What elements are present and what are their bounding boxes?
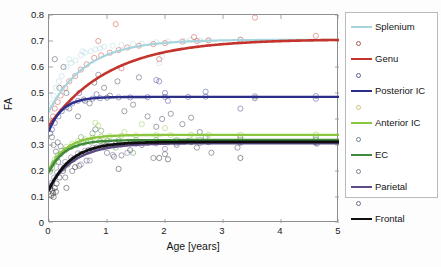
scatter-point: [313, 33, 318, 38]
scatter-point: [52, 106, 57, 111]
y-tick-label: 0: [39, 217, 44, 228]
legend-item-frontal[interactable]: Frontal: [346, 209, 437, 229]
scatter-series-anterior-ic: [49, 120, 318, 172]
legend-item-label: Posterior IC: [375, 86, 425, 96]
legend-marker-row: [346, 133, 437, 145]
legend-item-label: Anterior IC: [375, 118, 420, 128]
scatter-series-posterior-ic: [49, 77, 318, 135]
scatter-point: [64, 185, 69, 190]
scatter-point: [115, 79, 120, 84]
y-tick-label: 0.6: [31, 61, 44, 72]
scatter-point: [180, 122, 185, 127]
scatter-point: [162, 126, 167, 131]
legend-marker-row: [346, 197, 437, 209]
scatter-point: [165, 157, 170, 162]
x-axis-tick-labels: 012345: [48, 225, 338, 239]
scatter-point: [145, 114, 150, 119]
scatter-point: [102, 85, 107, 90]
y-tick-label: 0.7: [31, 35, 44, 46]
legend-line-swatch: [351, 154, 372, 156]
scatter-series-genu: [49, 15, 318, 126]
scatter-point: [94, 92, 99, 97]
legend-scatter-marker-icon: [356, 201, 361, 206]
scatter-point: [119, 42, 124, 47]
legend-item-splenium[interactable]: Splenium: [346, 17, 437, 37]
scatter-point: [59, 74, 64, 79]
fit-curve-splenium: [49, 40, 339, 111]
legend-item-parietal[interactable]: Parietal: [346, 177, 437, 197]
scatter-point: [51, 93, 56, 98]
legend-item-anterior-ic[interactable]: Anterior IC: [346, 113, 437, 133]
legend-line-swatch: [351, 90, 372, 92]
scatter-point: [168, 111, 173, 116]
chart-figure: FA 00.10.20.30.40.50.60.70.8 012345 Age …: [0, 0, 441, 267]
legend-item-ec[interactable]: EC: [346, 145, 437, 165]
x-tick-label: 3: [219, 225, 224, 236]
scatter-point: [99, 128, 104, 133]
scatter-point: [165, 98, 170, 103]
scatter-point: [151, 155, 156, 160]
legend-scatter-marker-icon: [356, 169, 361, 174]
legend-marker-row: [346, 165, 437, 177]
scatter-point: [252, 15, 257, 20]
y-tick-label: 0.8: [31, 9, 44, 20]
x-tick-label: 1: [103, 225, 108, 236]
y-tick-label: 0.2: [31, 165, 44, 176]
chart-legend: SpleniumGenuPosterior ICAnterior ICECPar…: [345, 12, 438, 198]
fit-curve-frontal: [49, 142, 339, 190]
scatter-point: [203, 89, 208, 94]
legend-item-label: Parietal: [375, 182, 407, 192]
scatter-point: [96, 38, 101, 43]
legend-line-swatch: [351, 122, 372, 124]
scatter-point: [189, 115, 194, 120]
scatter-point: [53, 85, 58, 90]
y-tick-label: 0.5: [31, 87, 44, 98]
x-axis-title: Age [years]: [48, 240, 338, 252]
scatter-point: [116, 166, 121, 171]
scatter-point: [154, 124, 159, 129]
legend-scatter-marker-icon: [356, 41, 361, 46]
legend-item-label: EC: [375, 150, 388, 160]
legend-line-swatch: [351, 26, 372, 28]
scatter-point: [87, 101, 92, 106]
legend-marker-row: [346, 37, 437, 49]
scatter-point: [73, 58, 78, 63]
y-axis-tick-labels: 00.10.20.30.40.50.60.70.8: [0, 14, 44, 222]
fit-curve-posterior-ic: [49, 97, 339, 131]
x-tick-label: 2: [161, 225, 166, 236]
y-tick-label: 0.4: [31, 113, 44, 124]
scatter-point: [78, 162, 83, 167]
legend-marker-row: [346, 101, 437, 113]
legend-line-swatch: [351, 186, 372, 188]
scatter-point: [238, 106, 243, 111]
legend-item-genu[interactable]: Genu: [346, 49, 437, 69]
scatter-point: [52, 57, 57, 62]
legend-item-posterior-ic[interactable]: Posterior IC: [346, 81, 437, 101]
scatter-point: [235, 145, 240, 150]
plot-canvas: [49, 15, 339, 223]
plot-area: [48, 14, 338, 222]
scatter-point: [139, 122, 144, 127]
legend-item-label: Splenium: [375, 22, 415, 32]
scatter-point: [64, 90, 69, 95]
scatter-point: [110, 152, 115, 157]
scatter-point: [75, 114, 80, 119]
x-tick-label: 4: [277, 225, 282, 236]
scatter-point: [78, 135, 83, 140]
legend-marker-row: [346, 69, 437, 81]
scatter-point: [160, 116, 165, 121]
legend-item-label: Genu: [375, 54, 398, 64]
x-tick-label: 0: [45, 225, 50, 236]
scatter-point: [162, 152, 167, 157]
y-tick-label: 0.3: [31, 139, 44, 150]
scatter-point: [162, 90, 167, 95]
scatter-point: [63, 175, 68, 180]
legend-line-swatch: [351, 58, 372, 60]
legend-scatter-marker-icon: [356, 105, 361, 110]
x-tick-label: 5: [335, 225, 340, 236]
scatter-point: [136, 75, 141, 80]
scatter-point: [122, 129, 127, 134]
scatter-point: [56, 79, 61, 84]
scatter-point: [119, 153, 124, 158]
legend-scatter-marker-icon: [356, 137, 361, 142]
